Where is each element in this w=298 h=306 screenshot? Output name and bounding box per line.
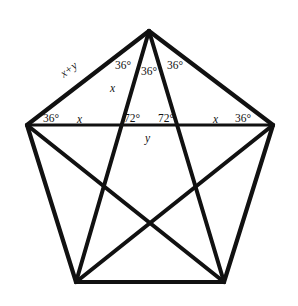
diagonal-apex-to-right-lower (149, 31, 224, 282)
label-left-inner-angle: 72° (124, 113, 140, 125)
geometry-figure: 36° 36° 36° x x+y 36° x 72° 72° x 36° y (0, 0, 298, 306)
label-right-base-angle: 36° (235, 113, 251, 125)
diagonal-left-upper-to-right-lower (27, 125, 224, 282)
pentagon-pentagram-drawing (0, 0, 298, 306)
label-apex-side-variable: x (110, 83, 115, 95)
edge-left (27, 125, 76, 282)
label-apex-right-angle: 36° (167, 60, 183, 72)
label-right-chord-variable: x (213, 114, 218, 126)
diagonal-right-upper-to-left-lower (76, 125, 273, 282)
diagonal-apex-to-left-lower (76, 31, 149, 282)
label-right-inner-angle: 72° (158, 113, 174, 125)
label-apex-middle-angle: 36° (141, 66, 157, 78)
label-left-base-angle: 36° (43, 113, 59, 125)
edge-right (224, 125, 273, 282)
edge-top-left (27, 31, 149, 125)
label-left-chord-variable: x (77, 114, 82, 126)
label-apex-left-angle: 36° (115, 60, 131, 72)
label-below-chord-variable: y (145, 133, 150, 145)
edge-top-right (149, 31, 273, 125)
